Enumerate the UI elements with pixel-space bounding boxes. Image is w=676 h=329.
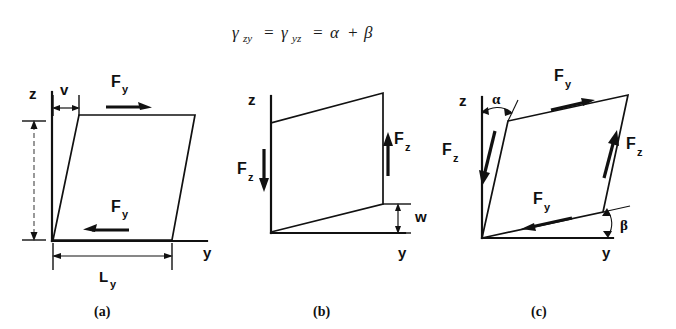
panel-c: z y α β F y F y F z F z [442,67,643,320]
alpha-symbol: α [330,23,340,42]
panel-b-right-force-subscript: z [405,141,411,153]
panel-a: z y v L y F y F y (a) [22,73,212,320]
panel-a-ly-label: L [99,268,108,285]
panel-c-y-label: y [602,244,611,261]
panel-b: z y F z F z w (b) [237,91,427,320]
panel-b-left-force-subscript: z [248,171,254,183]
panel-a-z-label: z [29,85,37,102]
panel-b-right-force-arrowhead [383,132,393,146]
panel-c-left-force-arrow-shaft [484,131,495,176]
panel-b-caption: (b) [313,304,330,320]
panel-c-right-force-arrow-shaft [604,140,614,178]
panel-c-right-force-subscript: z [637,146,643,158]
panel-c-top-force-label: F [554,67,564,84]
panel-c-left-force-arrowhead [479,170,490,186]
panel-a-top-force-arrowhead [138,102,152,110]
panel-c-bottom-force-label: F [533,190,543,207]
shear-deformation-figure: γ zy = γ yz = α + β z y v [0,0,676,329]
panel-a-v-label: v [60,81,69,98]
panel-c-bottom-force-arrow-shaft [531,218,572,227]
panel-a-sheared-element [53,115,195,240]
panel-c-alpha-label: α [492,91,501,107]
beta-symbol: β [363,23,373,42]
panel-c-top-force-subscript: y [565,78,572,90]
panel-c-right-force-arrowhead [608,130,619,146]
panel-c-alpha-arc-arrowhead [504,108,513,116]
panel-b-w-label: w [414,208,427,225]
plus-sign: + [347,23,358,42]
gamma-yz-symbol: γ [281,23,289,42]
panel-b-right-force-label: F [394,130,404,147]
panel-a-bottom-force-subscript: y [122,208,129,220]
panel-a-caption: (a) [94,304,111,320]
gamma-zy-subscript: zy [242,32,252,44]
panel-a-ly-subscript: y [110,278,117,290]
equation-line: γ zy = γ yz = α + β [232,23,373,44]
equals-sign-1: = [263,23,274,42]
panel-b-y-label: y [398,244,407,261]
gamma-zy-symbol: γ [232,23,240,42]
panel-b-z-label: z [248,91,256,108]
panel-c-beta-label: β [620,217,628,233]
panel-c-left-force-subscript: z [453,152,459,164]
panel-a-bottom-force-arrowhead [83,224,97,232]
panel-a-y-label: y [203,244,212,261]
panel-c-z-label: z [459,92,467,109]
panel-c-caption: (c) [531,304,547,320]
panel-c-bottom-force-subscript: y [544,201,551,213]
equals-sign-2: = [312,23,323,42]
panel-c-right-force-label: F [626,135,636,152]
panel-b-left-force-arrowhead [259,178,269,192]
panel-a-bottom-force-label: F [111,198,121,215]
gamma-yz-subscript: yz [291,32,302,44]
panel-b-sheared-element [271,93,383,232]
panel-a-top-force-subscript: y [122,83,129,95]
panel-b-left-force-label: F [237,160,247,177]
panel-a-top-force-label: F [111,73,121,90]
panel-c-left-force-label: F [442,141,452,158]
